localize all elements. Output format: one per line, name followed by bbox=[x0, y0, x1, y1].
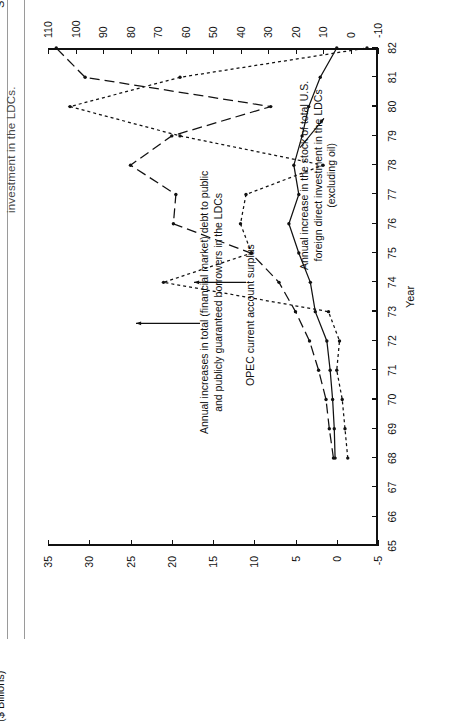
x-tick-label: 74 bbox=[386, 276, 398, 288]
y-axis-right-title: OPEC Surpluses bbox=[0, 0, 7, 8]
x-tick-label: 82 bbox=[386, 42, 398, 54]
y-left-tick-label: 10 bbox=[248, 556, 260, 568]
annotation-debt-label: Annual increases in total (financial mar… bbox=[198, 170, 225, 433]
x-tick-label: 66 bbox=[386, 510, 398, 522]
y-right-tick-label: 50 bbox=[207, 26, 219, 38]
plot-area: 656667686970717273747576777879808182 -50… bbox=[48, 48, 378, 546]
data-point bbox=[244, 192, 247, 195]
data-point bbox=[365, 46, 368, 49]
x-tick-label: 75 bbox=[386, 247, 398, 259]
data-point bbox=[174, 192, 177, 195]
annotation-opec-label: OPEC current account surplus bbox=[244, 244, 258, 386]
x-tick-label: 72 bbox=[386, 335, 398, 347]
y-left-tick-label: 25 bbox=[124, 556, 136, 568]
y-right-tick-label: 30 bbox=[262, 26, 274, 38]
y-left-tick-label: 0 bbox=[330, 556, 342, 562]
x-tick-label: 81 bbox=[386, 71, 398, 83]
y-right-tick-label: 40 bbox=[234, 26, 246, 38]
x-tick-label: 71 bbox=[386, 364, 398, 376]
x-tick-label: 69 bbox=[386, 422, 398, 434]
y-left-tick-label: -5 bbox=[372, 556, 384, 565]
x-tick-label: 65 bbox=[386, 540, 398, 552]
y-left-tick-label: 15 bbox=[207, 556, 219, 568]
y-left-tick-label: 20 bbox=[165, 556, 177, 568]
x-tick-label: 70 bbox=[386, 393, 398, 405]
data-point bbox=[128, 163, 131, 166]
y-right-tick-label: 20 bbox=[289, 26, 301, 38]
data-point bbox=[171, 222, 174, 225]
x-tick-label: 80 bbox=[386, 100, 398, 112]
annotation-fdi-label: Annual increase in the stock of total U.… bbox=[298, 80, 339, 269]
x-tick-label: 67 bbox=[386, 481, 398, 493]
y-left-tick-label: 30 bbox=[83, 556, 95, 568]
x-tick-label: 68 bbox=[386, 452, 398, 464]
y-right-tick-label: 70 bbox=[152, 26, 164, 38]
data-point bbox=[68, 104, 71, 107]
y-right-tick-label: -10 bbox=[372, 22, 384, 37]
y-right-tick-label: 100 bbox=[69, 20, 81, 38]
x-tick-label: 78 bbox=[386, 159, 398, 171]
y-right-tick-label: 80 bbox=[124, 26, 136, 38]
x-tick-label: 79 bbox=[386, 130, 398, 142]
x-tick-label: 73 bbox=[386, 305, 398, 317]
y-left-tick-label: 35 bbox=[42, 556, 54, 568]
data-point bbox=[161, 280, 164, 283]
y-right-tick-label: 60 bbox=[179, 26, 191, 38]
x-axis-title: Year bbox=[404, 285, 418, 307]
x-tick-label: 77 bbox=[386, 188, 398, 200]
y-right-tick-label: 0 bbox=[344, 32, 356, 38]
y-left-tick-label: 5 bbox=[289, 556, 301, 562]
y-right-tick-label: 90 bbox=[97, 26, 109, 38]
data-point bbox=[238, 222, 241, 225]
y-right-tick-label: 10 bbox=[317, 26, 329, 38]
y-axis-left-title: Debt and U.S. FDI ($ Billions) bbox=[0, 632, 7, 721]
y-right-tick-label: 110 bbox=[42, 21, 54, 38]
x-tick-label: 76 bbox=[386, 217, 398, 229]
data-point bbox=[335, 46, 338, 49]
series-line bbox=[56, 48, 333, 458]
data-point bbox=[54, 46, 57, 49]
data-point bbox=[337, 339, 340, 342]
chart-figure: Debt and U.S. FDI ($ Billions) OPEC Surp… bbox=[14, 20, 434, 620]
